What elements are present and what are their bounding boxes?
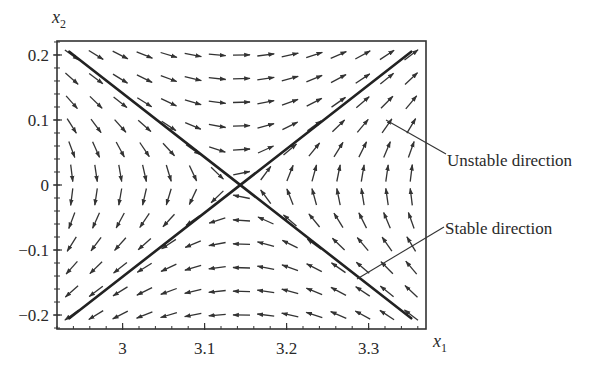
y-axis-ticks: 0.20.10−0.1−0.2 (18, 42, 62, 328)
field-arrow (382, 237, 392, 251)
field-arrow (116, 142, 124, 157)
field-arrow (384, 142, 391, 158)
field-arrow (113, 311, 128, 319)
field-arrow (282, 265, 298, 271)
field-arrow (119, 165, 122, 182)
field-arrow (161, 264, 176, 271)
y-tick-label: −0.1 (18, 241, 49, 260)
field-arrow (359, 142, 367, 157)
x-tick-label: 3.2 (276, 339, 297, 358)
field-arrow (282, 99, 298, 105)
field-arrow (137, 52, 153, 58)
unstable-callout-line (386, 120, 446, 154)
field-arrow (306, 312, 322, 317)
field-arrow (93, 142, 100, 158)
field-arrow (185, 313, 202, 316)
field-arrow (140, 143, 150, 157)
x-axis-label: x1 (432, 331, 447, 355)
field-arrow (161, 76, 177, 82)
field-arrow (233, 172, 250, 175)
field-arrow (258, 242, 275, 246)
field-arrow (209, 147, 225, 152)
field-arrow (357, 238, 368, 251)
y-tick-label: 0.1 (28, 111, 49, 130)
field-arrow (408, 142, 414, 158)
separatrix-lines (69, 52, 411, 319)
field-arrow (282, 313, 299, 317)
field-arrow (386, 188, 388, 205)
field-arrow (257, 101, 274, 104)
field-arrow (334, 142, 343, 157)
field-arrow (356, 97, 369, 108)
field-arrow (257, 314, 274, 316)
field-arrow (137, 312, 153, 318)
field-arrow (185, 53, 202, 56)
field-arrow (166, 165, 171, 181)
field-arrow (309, 143, 320, 156)
field-arrow (140, 213, 150, 227)
field-arrow (257, 54, 274, 56)
field-arrow (189, 166, 196, 181)
field-arrow (67, 119, 76, 133)
field-arrow (282, 53, 299, 57)
field-arrow (356, 287, 370, 296)
field-arrow (258, 124, 275, 128)
field-arrow (89, 51, 103, 60)
field-arrow (209, 267, 226, 269)
field-arrow (161, 289, 177, 295)
y-tick-label: 0.2 (28, 46, 49, 65)
field-arrow (282, 240, 297, 248)
field-arrow (161, 99, 176, 106)
field-arrow (66, 261, 77, 274)
field-arrow (355, 311, 370, 319)
field-arrow (334, 213, 343, 228)
field-arrow (380, 310, 394, 319)
field-arrow (163, 143, 175, 156)
field-arrow (161, 53, 177, 58)
y-tick-label: 0 (41, 176, 50, 195)
field-arrow (90, 262, 102, 274)
field-arrow (95, 165, 98, 182)
field-arrow (114, 262, 127, 273)
field-arrow (359, 213, 367, 228)
field-arrow (115, 120, 126, 133)
field-arrow (91, 119, 101, 133)
field-arrow (163, 214, 175, 227)
field-arrow (69, 142, 75, 158)
field-arrow (410, 165, 412, 182)
stable-direction-label: Stable direction (445, 219, 553, 238)
field-arrow (233, 102, 250, 103)
field-arrow (209, 243, 226, 246)
field-arrow (185, 265, 201, 270)
field-arrow (69, 213, 75, 229)
x-tick-label: 3 (118, 339, 127, 358)
field-arrow (408, 213, 414, 229)
field-arrow (287, 189, 293, 205)
field-arrow (337, 189, 340, 206)
field-arrow (209, 78, 226, 80)
field-arrow (331, 75, 346, 83)
field-arrow (380, 50, 394, 59)
field-arrow (306, 75, 322, 81)
field-arrow (143, 189, 147, 206)
field-arrow (384, 213, 391, 229)
field-arrow (356, 74, 370, 83)
field-arrow (90, 96, 102, 108)
field-arrow (233, 126, 250, 127)
field-arrow (257, 290, 274, 293)
field-arrow (138, 120, 151, 131)
field-arrow (355, 51, 370, 59)
field-arrow (161, 313, 177, 318)
field-arrow (306, 288, 322, 294)
field-arrow (309, 214, 320, 227)
field-arrow (407, 119, 416, 134)
stable-callout-line (357, 227, 444, 279)
field-arrow (137, 75, 152, 83)
field-arrow (113, 51, 128, 59)
field-arrow (257, 77, 274, 80)
field-arrow (185, 241, 201, 248)
field-arrow (307, 98, 322, 106)
field-arrow (185, 123, 201, 130)
field-arrow (331, 52, 347, 59)
field-arrow (410, 188, 412, 205)
